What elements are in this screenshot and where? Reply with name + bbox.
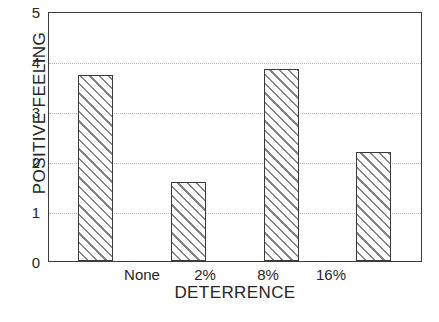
bar-chart-figure: POSITIVE FEELING 0 1 2 3 4 5 None 2% 8% … <box>0 0 439 322</box>
y-tick-1: 1 <box>20 205 40 220</box>
y-tick-5: 5 <box>20 5 40 20</box>
bar-2pct[interactable] <box>171 182 206 261</box>
y-axis-tick-labels: 0 1 2 3 4 5 <box>12 12 44 262</box>
bar-8pct[interactable] <box>264 69 299 261</box>
x-axis-title: DETERRENCE <box>48 283 422 303</box>
gridline-y-4 <box>49 63 421 64</box>
bar-16pct[interactable] <box>356 152 391 261</box>
x-tick-16pct: 16% <box>291 266 371 284</box>
y-tick-0: 0 <box>20 255 40 270</box>
y-tick-2: 2 <box>20 155 40 170</box>
plot-area <box>48 12 422 262</box>
y-tick-4: 4 <box>20 55 40 70</box>
bar-none[interactable] <box>78 75 113 261</box>
y-tick-3: 3 <box>20 105 40 120</box>
